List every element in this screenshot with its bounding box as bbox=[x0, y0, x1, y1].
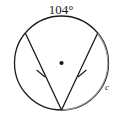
center-point-dot bbox=[59, 61, 63, 65]
circle-geometry-diagram: 104° c bbox=[0, 0, 118, 121]
geometry-figure-container: 104° c bbox=[0, 0, 118, 121]
arc-angle-label: 104° bbox=[49, 2, 74, 17]
arc-name-label: c bbox=[105, 82, 109, 92]
